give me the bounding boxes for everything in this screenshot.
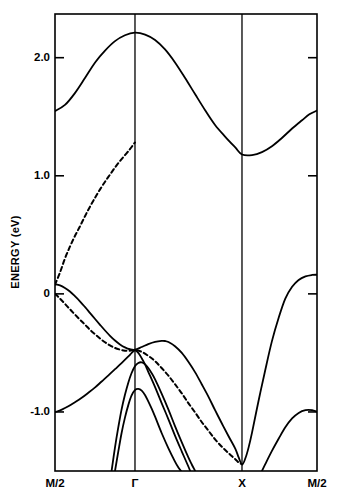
band-curve: [55, 142, 135, 284]
band-curve: [55, 33, 317, 156]
y-tick-label: 1.0: [34, 169, 50, 181]
band-structure-figure: ENERGY (eV) 2.01.00-1.0 M/2ΓXM/2: [0, 0, 340, 503]
plot-frame: [55, 14, 317, 471]
y-tick-label: 0: [44, 287, 50, 299]
band-structure-plot: [0, 0, 340, 503]
band-curve: [115, 389, 181, 471]
band-curve: [55, 275, 317, 465]
band-curve: [55, 294, 242, 464]
band-curves: [55, 33, 317, 471]
x-tick-label: M/2: [30, 477, 80, 489]
x-tick-label: Γ: [110, 477, 160, 489]
x-tick-label: M/2: [292, 477, 340, 489]
x-tick-label: X: [217, 477, 267, 489]
y-tick-label: -1.0: [30, 405, 50, 417]
y-tick-label: 2.0: [34, 51, 50, 63]
band-curve: [262, 410, 317, 471]
